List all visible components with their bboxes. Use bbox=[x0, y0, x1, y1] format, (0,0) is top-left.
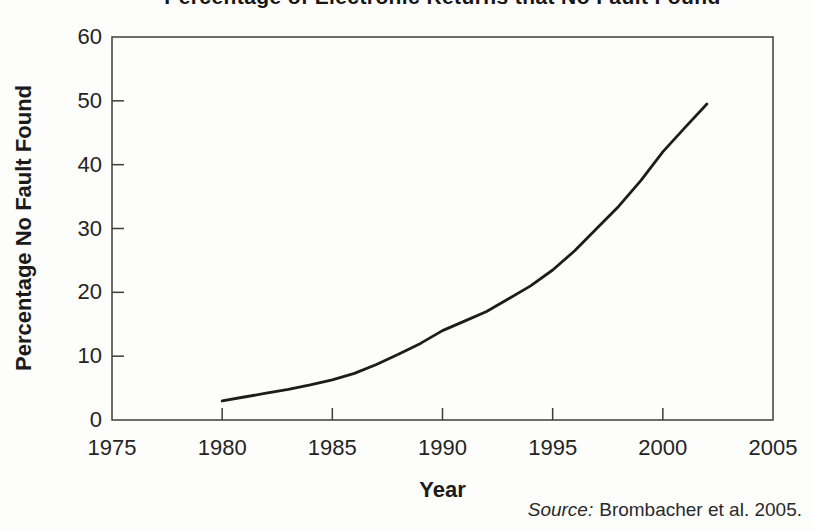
x-tick-label: 1990 bbox=[403, 436, 483, 460]
data-line-no-fault-found bbox=[222, 104, 707, 401]
source-text: Brombacher et al. 2005. bbox=[599, 499, 802, 520]
x-tick-label: 1980 bbox=[182, 436, 262, 460]
x-tick-label: 2000 bbox=[623, 436, 703, 460]
x-tick-label: 2005 bbox=[733, 436, 813, 460]
figure-scan: Percentage of Electronic Returns that No… bbox=[0, 0, 814, 531]
y-tick-label: 20 bbox=[38, 280, 102, 304]
y-tick-label: 0 bbox=[38, 408, 102, 432]
source-credit: Source:Brombacher et al. 2005. bbox=[528, 499, 802, 521]
y-tick-label: 50 bbox=[38, 89, 102, 113]
source-label: Source: bbox=[528, 499, 593, 520]
y-axis-title: Percentage No Fault Found bbox=[9, 37, 39, 420]
x-tick-label: 1995 bbox=[513, 436, 593, 460]
x-tick-label: 1985 bbox=[292, 436, 372, 460]
y-tick-label: 30 bbox=[38, 217, 102, 241]
y-tick-label: 60 bbox=[38, 25, 102, 49]
plot-frame bbox=[112, 37, 773, 420]
y-tick-label: 40 bbox=[38, 153, 102, 177]
y-tick-label: 10 bbox=[38, 344, 102, 368]
x-tick-label: 1975 bbox=[72, 436, 152, 460]
